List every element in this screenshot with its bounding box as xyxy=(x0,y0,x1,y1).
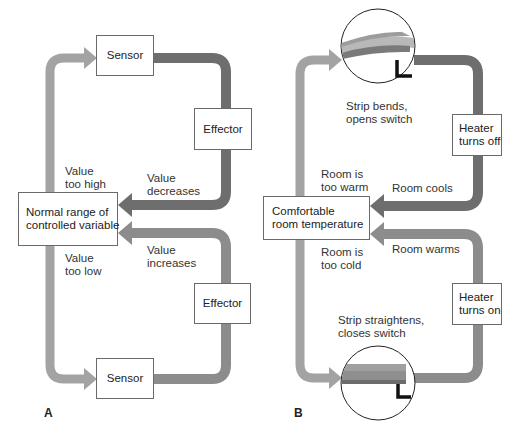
arrowhead-b-warms xyxy=(370,222,384,246)
panel-b-letter: B xyxy=(294,406,303,420)
heater-on-label: Heater turns on xyxy=(459,291,501,317)
sensor-box-bottom: Sensor xyxy=(96,358,154,399)
heater-off-box: Heater turns off xyxy=(452,114,502,156)
arrowhead-b-top-strip xyxy=(329,49,342,71)
room-warms-label: Room warms xyxy=(392,243,460,256)
value-too-high-label: Value too high xyxy=(65,165,106,191)
sensor-top-label: Sensor xyxy=(107,49,143,62)
normal-range-label: Normal range of controlled variable xyxy=(26,206,119,232)
arrow-a-sensor-effector-low xyxy=(154,324,226,379)
effector-top-label: Effector xyxy=(203,123,242,136)
sensor-box-top: Sensor xyxy=(96,35,154,76)
comfortable-temp-box: Comfortable room temperature xyxy=(263,196,370,240)
room-too-cold-label: Room is too cold xyxy=(321,246,363,272)
strip-straightens-label: Strip straightens, closes switch xyxy=(338,314,424,340)
value-too-low-label: Value too low xyxy=(65,252,101,278)
value-increases-label: Value increases xyxy=(147,244,196,270)
arrowhead-b-bottom-strip xyxy=(329,367,342,389)
arrow-a-sensor-effector xyxy=(154,58,226,108)
bimetal-strip-bent-icon xyxy=(338,9,415,83)
heater-on-box: Heater turns on xyxy=(452,283,502,325)
normal-range-box: Normal range of controlled variable xyxy=(18,192,118,246)
arrowhead-b-cools xyxy=(370,194,384,218)
bimetal-strip-straight-icon xyxy=(338,346,415,420)
strip-bends-label: Strip bends, opens switch xyxy=(346,100,412,126)
arrow-b-strip-heater-off xyxy=(414,60,478,114)
arrow-b-heater-on-room xyxy=(382,234,478,283)
effector-bottom-label: Effector xyxy=(203,297,242,310)
effector-box-top: Effector xyxy=(194,108,252,150)
sensor-bottom-label: Sensor xyxy=(107,372,143,385)
arrowhead-a-decreases xyxy=(118,193,132,217)
panel-a-letter: A xyxy=(44,406,53,420)
effector-box-bottom: Effector xyxy=(194,283,251,324)
room-too-warm-label: Room is too warm xyxy=(321,168,368,194)
arrowhead-a-increases xyxy=(118,221,132,245)
comfortable-temp-label: Comfortable room temperature xyxy=(272,205,363,231)
value-decreases-label: Value decreases xyxy=(147,172,200,198)
arrow-b-heater-off-room xyxy=(382,156,478,206)
room-cools-label: Room cools xyxy=(392,182,453,195)
heater-off-label: Heater turns off xyxy=(459,122,500,148)
